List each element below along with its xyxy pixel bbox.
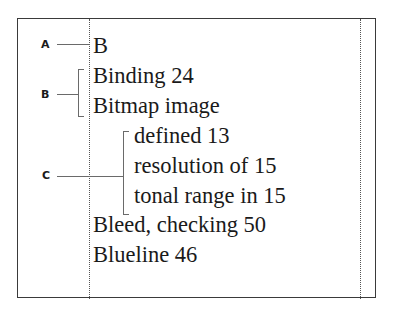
- index-subentry: tonal range in 15: [134, 185, 286, 208]
- bracket-b-vertical: [78, 69, 79, 116]
- callout-label-a: A: [41, 39, 50, 50]
- callout-leader-a: [57, 44, 89, 45]
- left-margin-guide: [89, 19, 90, 299]
- callout-leader-c: [57, 176, 123, 177]
- bracket-c-top-tick: [123, 131, 129, 132]
- index-subentry: defined 13: [134, 125, 230, 148]
- index-entry: Blueline 46: [93, 244, 197, 267]
- right-margin-guide: [360, 19, 361, 299]
- callout-leader-b: [57, 94, 78, 95]
- bracket-b-bottom-tick: [78, 116, 84, 117]
- bracket-c-vertical: [123, 131, 124, 214]
- index-section-letter: B: [93, 35, 108, 58]
- bracket-b-top-tick: [78, 69, 84, 70]
- index-entry: Bleed, checking 50: [93, 214, 266, 237]
- index-entry: Bitmap image: [93, 95, 220, 118]
- callout-label-b: B: [41, 89, 49, 100]
- callout-label-c: C: [42, 170, 50, 181]
- index-subentry: resolution of 15: [134, 155, 276, 178]
- index-entry: Binding 24: [93, 65, 194, 88]
